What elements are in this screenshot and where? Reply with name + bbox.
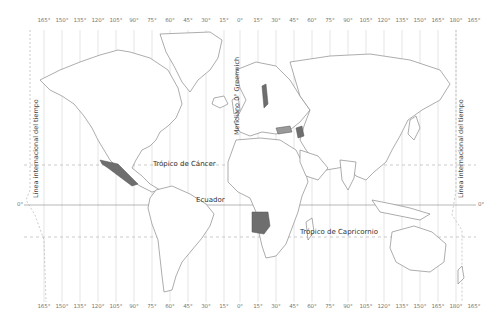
top-tick: 45° [183, 17, 193, 23]
top-tick: 135° [73, 17, 86, 23]
bottom-tick: 105° [109, 303, 122, 309]
caspian-area [296, 126, 304, 138]
new-zealand [458, 266, 464, 284]
top-tick: 135° [395, 17, 408, 23]
tropic-cancer-label: Trópico de Cáncer [153, 160, 216, 168]
bottom-tick: 135° [395, 303, 408, 309]
bottom-tick: 165° [37, 303, 50, 309]
bottom-tick: 135° [73, 303, 86, 309]
top-tick: 0° [237, 17, 243, 23]
bottom-tick: 150° [55, 303, 68, 309]
bottom-tick: 105° [359, 303, 372, 309]
bottom-tick: 165° [431, 303, 444, 309]
top-tick: 105° [109, 17, 122, 23]
date-line-label-right: Línea internacional del tiempo [457, 99, 465, 198]
bottom-tick: 165° [467, 303, 480, 309]
india [340, 160, 356, 190]
bottom-tick: 75° [147, 303, 157, 309]
bottom-tick: 30° [201, 303, 211, 309]
top-tick: 15° [219, 17, 229, 23]
japan [408, 116, 420, 140]
bottom-tick: 150° [413, 303, 426, 309]
bottom-tick: 180° [449, 303, 462, 309]
top-tick: 15° [253, 17, 263, 23]
map-graphic [0, 0, 501, 330]
bottom-tick: 120° [377, 303, 390, 309]
date-line-label-left: Línea internacional del tiempo [32, 99, 40, 198]
equator-degree-left: 0° [17, 201, 23, 207]
bottom-tick: 120° [91, 303, 104, 309]
top-tick: 120° [91, 17, 104, 23]
bottom-tick: 60° [165, 303, 175, 309]
bottom-tick: 15° [253, 303, 263, 309]
equator-label: Ecuador [196, 196, 225, 204]
top-tick: 30° [201, 17, 211, 23]
north-america [40, 50, 182, 192]
indonesia [372, 200, 430, 220]
top-tick: 120° [377, 17, 390, 23]
tropic-capricorn-label: Trópico de Capricornio [300, 228, 378, 236]
top-tick: 105° [359, 17, 372, 23]
top-tick: 90° [343, 17, 353, 23]
bottom-tick: 45° [183, 303, 193, 309]
bottom-tick: 90° [129, 303, 139, 309]
bottom-tick: 75° [325, 303, 335, 309]
top-tick: 75° [147, 17, 157, 23]
top-tick: 90° [129, 17, 139, 23]
top-tick: 75° [325, 17, 335, 23]
equator-degree-right: 0° [478, 201, 484, 207]
bottom-tick: 60° [307, 303, 317, 309]
bottom-tick: 0° [237, 303, 243, 309]
bottom-tick: 30° [271, 303, 281, 309]
bottom-tick: 15° [219, 303, 229, 309]
top-tick: 30° [271, 17, 281, 23]
top-tick: 45° [289, 17, 299, 23]
top-tick: 60° [307, 17, 317, 23]
iceland [212, 96, 228, 108]
top-tick: 165° [467, 17, 480, 23]
top-tick: 150° [55, 17, 68, 23]
top-tick: 165° [431, 17, 444, 23]
top-tick: 180° [449, 17, 462, 23]
greenwich-label: Meridiano 0° Greenwich [233, 57, 241, 135]
world-map: 165° 150° 135° 120° 105° 90° 75° 60° 45°… [0, 0, 501, 330]
top-tick: 60° [165, 17, 175, 23]
bottom-tick: 90° [343, 303, 353, 309]
top-tick: 150° [413, 17, 426, 23]
top-tick: 165° [37, 17, 50, 23]
bottom-tick: 45° [289, 303, 299, 309]
australia [390, 226, 446, 272]
